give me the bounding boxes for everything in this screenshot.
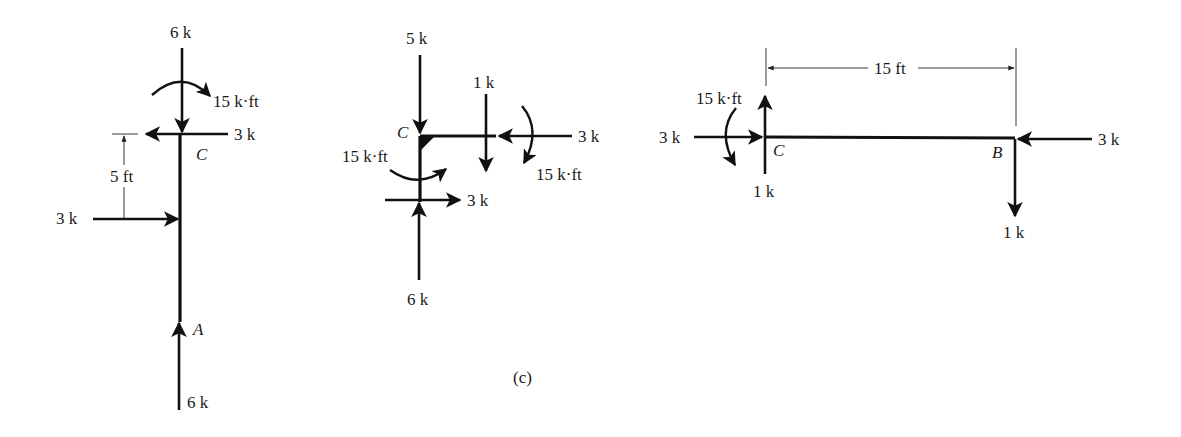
label-point-c: C <box>773 141 785 160</box>
label-top-force: 5 k <box>406 29 428 48</box>
label-top-force: 6 k <box>170 23 192 42</box>
label-bottom-force: 6 k <box>407 290 429 309</box>
label-beam-shear: 1 k <box>473 73 495 92</box>
label-left-shear: 1 k <box>753 182 775 201</box>
label-left-axial: 3 k <box>659 128 681 147</box>
label-point-c: C <box>397 123 409 142</box>
beam-member <box>766 137 1015 138</box>
label-bottom-force: 6 k <box>187 393 209 412</box>
label-dimension: 15 ft <box>874 59 906 78</box>
label-beam-axial: 3 k <box>578 127 600 146</box>
label-column-horizontal: 3 k <box>467 191 489 210</box>
figure-caption: (c) <box>513 368 532 387</box>
structural-free-body-diagrams: 6 k 15 k·ft 3 k C 5 ft 3 k A 6 k 5 k C 1… <box>0 0 1181 437</box>
label-top-moment: 15 k·ft <box>213 92 259 111</box>
moment-arc-icon <box>390 169 446 180</box>
label-moment: 15 k·ft <box>696 89 742 108</box>
moment-arc-icon <box>522 106 533 163</box>
label-point-a: A <box>192 320 204 339</box>
label-column-moment: 15 k·ft <box>342 147 388 166</box>
fbd-beam-cb: 15 ft 1 k 15 k·ft 3 k C B 3 k 1 k <box>659 48 1120 242</box>
label-side-force: 3 k <box>56 209 78 228</box>
rigid-joint-gusset <box>421 137 434 150</box>
fbd-joint-c: 5 k C 1 k 3 k 15 k·ft 15 k·ft 3 k 6 k <box>342 29 600 309</box>
label-top-horizontal: 3 k <box>234 125 256 144</box>
label-right-shear: 1 k <box>1003 223 1025 242</box>
label-beam-moment: 15 k·ft <box>536 165 582 184</box>
fbd-column-ac: 6 k 15 k·ft 3 k C 5 ft 3 k A 6 k <box>56 23 259 412</box>
label-dimension: 5 ft <box>110 167 133 186</box>
label-right-axial: 3 k <box>1098 130 1120 149</box>
label-point-c: C <box>196 145 208 164</box>
label-point-b: B <box>992 143 1003 162</box>
